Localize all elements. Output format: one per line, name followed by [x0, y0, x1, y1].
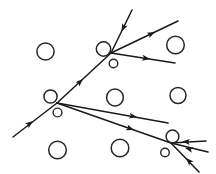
scattering-diagram [0, 0, 216, 174]
figure-background [0, 0, 216, 174]
scattering-canvas [0, 0, 216, 174]
